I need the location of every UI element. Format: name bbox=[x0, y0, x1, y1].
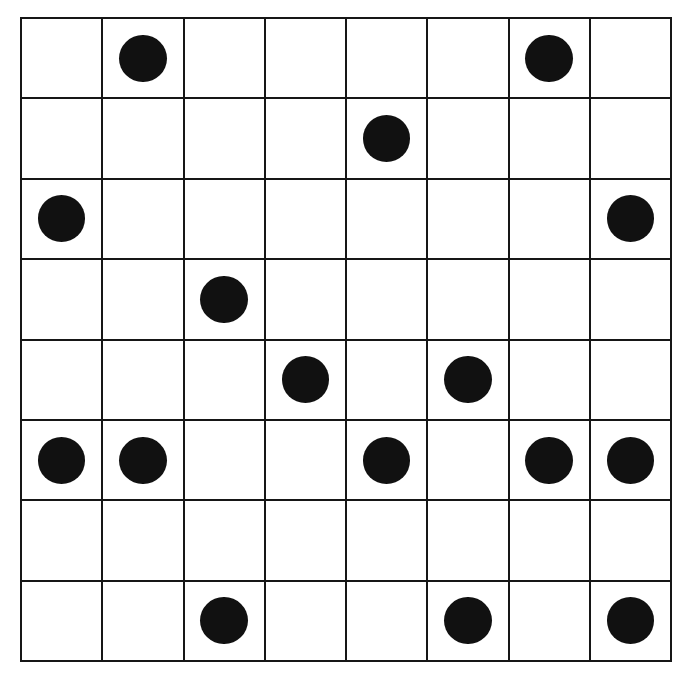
filled-circle-icon bbox=[607, 597, 655, 644]
grid-cell-r8-c8[interactable] bbox=[590, 581, 671, 661]
grid-cell-r4-c4[interactable] bbox=[265, 259, 346, 339]
grid-cell-r1-c4[interactable] bbox=[265, 18, 346, 98]
filled-circle-icon bbox=[444, 597, 492, 644]
dot-container bbox=[185, 260, 264, 338]
dot-container bbox=[22, 180, 101, 258]
filled-circle-icon bbox=[119, 437, 167, 484]
grid-cell-r7-c8[interactable] bbox=[590, 500, 671, 580]
grid-cell-r3-c3[interactable] bbox=[184, 179, 265, 259]
grid-row bbox=[21, 259, 671, 339]
grid-row bbox=[21, 179, 671, 259]
grid-cell-r4-c5[interactable] bbox=[346, 259, 427, 339]
filled-circle-icon bbox=[282, 356, 330, 403]
grid-cell-r7-c1[interactable] bbox=[21, 500, 102, 580]
grid-cell-r2-c8[interactable] bbox=[590, 98, 671, 178]
grid-cell-r1-c3[interactable] bbox=[184, 18, 265, 98]
grid-cell-r2-c4[interactable] bbox=[265, 98, 346, 178]
grid-cell-r5-c7[interactable] bbox=[509, 340, 590, 420]
filled-circle-icon bbox=[38, 437, 86, 484]
grid-cell-r4-c6[interactable] bbox=[427, 259, 508, 339]
filled-circle-icon bbox=[607, 437, 655, 484]
filled-circle-icon bbox=[607, 195, 655, 242]
grid-cell-r6-c3[interactable] bbox=[184, 420, 265, 500]
grid-cell-r7-c4[interactable] bbox=[265, 500, 346, 580]
grid-table bbox=[20, 17, 672, 662]
grid-cell-r7-c3[interactable] bbox=[184, 500, 265, 580]
grid-cell-r3-c2[interactable] bbox=[102, 179, 183, 259]
grid-cell-r1-c5[interactable] bbox=[346, 18, 427, 98]
grid-cell-r3-c7[interactable] bbox=[509, 179, 590, 259]
grid-cell-r2-c5[interactable] bbox=[346, 98, 427, 178]
grid-cell-r7-c2[interactable] bbox=[102, 500, 183, 580]
dot-container bbox=[347, 421, 426, 499]
grid-cell-r3-c1[interactable] bbox=[21, 179, 102, 259]
filled-circle-icon bbox=[525, 35, 573, 82]
grid-cell-r6-c1[interactable] bbox=[21, 420, 102, 500]
grid-cell-r7-c5[interactable] bbox=[346, 500, 427, 580]
dot-container bbox=[591, 421, 670, 499]
grid-cell-r8-c3[interactable] bbox=[184, 581, 265, 661]
grid-cell-r2-c6[interactable] bbox=[427, 98, 508, 178]
dot-container bbox=[22, 421, 101, 499]
grid-row bbox=[21, 420, 671, 500]
grid-cell-r1-c1[interactable] bbox=[21, 18, 102, 98]
grid-cell-r6-c5[interactable] bbox=[346, 420, 427, 500]
filled-circle-icon bbox=[363, 437, 411, 484]
grid-row bbox=[21, 500, 671, 580]
filled-circle-icon bbox=[200, 276, 248, 323]
dot-container bbox=[347, 99, 426, 177]
grid-cell-r2-c3[interactable] bbox=[184, 98, 265, 178]
grid-cell-r6-c7[interactable] bbox=[509, 420, 590, 500]
grid-row bbox=[21, 18, 671, 98]
grid-cell-r5-c5[interactable] bbox=[346, 340, 427, 420]
grid-cell-r5-c3[interactable] bbox=[184, 340, 265, 420]
dot-container bbox=[103, 19, 182, 97]
grid-cell-r5-c6[interactable] bbox=[427, 340, 508, 420]
dot-container bbox=[428, 341, 507, 419]
grid-cell-r1-c6[interactable] bbox=[427, 18, 508, 98]
grid-row bbox=[21, 98, 671, 178]
grid-cell-r2-c7[interactable] bbox=[509, 98, 590, 178]
grid-cell-r6-c8[interactable] bbox=[590, 420, 671, 500]
grid-cell-r4-c2[interactable] bbox=[102, 259, 183, 339]
grid-cell-r7-c7[interactable] bbox=[509, 500, 590, 580]
dot-container bbox=[266, 341, 345, 419]
grid-cell-r8-c1[interactable] bbox=[21, 581, 102, 661]
filled-circle-icon bbox=[444, 356, 492, 403]
grid-cell-r2-c2[interactable] bbox=[102, 98, 183, 178]
filled-circle-icon bbox=[200, 597, 248, 644]
grid-cell-r3-c4[interactable] bbox=[265, 179, 346, 259]
grid-cell-r1-c2[interactable] bbox=[102, 18, 183, 98]
dot-grid-figure bbox=[20, 17, 672, 662]
grid-cell-r5-c2[interactable] bbox=[102, 340, 183, 420]
filled-circle-icon bbox=[38, 195, 86, 242]
filled-circle-icon bbox=[525, 437, 573, 484]
grid-cell-r8-c4[interactable] bbox=[265, 581, 346, 661]
grid-cell-r4-c1[interactable] bbox=[21, 259, 102, 339]
grid-cell-r4-c7[interactable] bbox=[509, 259, 590, 339]
grid-cell-r3-c5[interactable] bbox=[346, 179, 427, 259]
grid-cell-r3-c6[interactable] bbox=[427, 179, 508, 259]
grid-cell-r6-c4[interactable] bbox=[265, 420, 346, 500]
grid-cell-r1-c8[interactable] bbox=[590, 18, 671, 98]
grid-cell-r8-c7[interactable] bbox=[509, 581, 590, 661]
dot-container bbox=[510, 19, 589, 97]
dot-container bbox=[591, 582, 670, 660]
grid-cell-r5-c1[interactable] bbox=[21, 340, 102, 420]
dot-container bbox=[428, 582, 507, 660]
grid-cell-r4-c8[interactable] bbox=[590, 259, 671, 339]
grid-cell-r2-c1[interactable] bbox=[21, 98, 102, 178]
grid-cell-r1-c7[interactable] bbox=[509, 18, 590, 98]
grid-cell-r5-c4[interactable] bbox=[265, 340, 346, 420]
grid-cell-r4-c3[interactable] bbox=[184, 259, 265, 339]
grid-cell-r3-c8[interactable] bbox=[590, 179, 671, 259]
grid-cell-r8-c5[interactable] bbox=[346, 581, 427, 661]
grid-cell-r8-c6[interactable] bbox=[427, 581, 508, 661]
grid-row bbox=[21, 581, 671, 661]
grid-cell-r8-c2[interactable] bbox=[102, 581, 183, 661]
grid-cell-r7-c6[interactable] bbox=[427, 500, 508, 580]
grid-cell-r5-c8[interactable] bbox=[590, 340, 671, 420]
dot-container bbox=[103, 421, 182, 499]
grid-cell-r6-c2[interactable] bbox=[102, 420, 183, 500]
grid-cell-r6-c6[interactable] bbox=[427, 420, 508, 500]
